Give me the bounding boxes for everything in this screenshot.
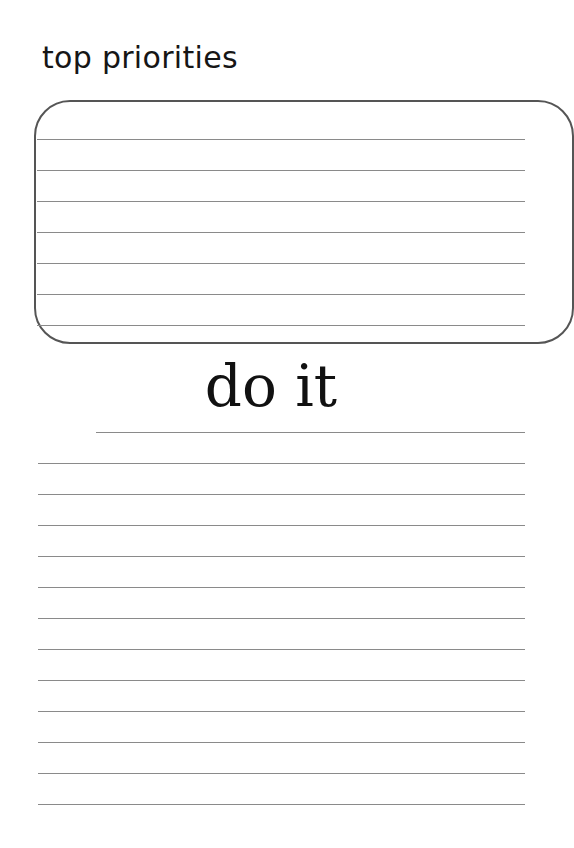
writing-line	[38, 680, 525, 681]
section-heading: do it	[0, 352, 536, 420]
section-heading-text: do it	[205, 352, 337, 420]
writing-line	[38, 556, 525, 557]
writing-line	[38, 618, 525, 619]
writing-line	[37, 294, 525, 295]
page-title: top priorities	[42, 40, 238, 75]
writing-line	[37, 201, 525, 202]
writing-line	[37, 263, 525, 264]
writing-line	[38, 587, 525, 588]
writing-line	[38, 649, 525, 650]
writing-line	[38, 463, 525, 464]
writing-line	[38, 773, 525, 774]
top-priorities-box	[34, 100, 574, 344]
writing-line	[38, 804, 525, 805]
writing-line	[96, 432, 525, 433]
writing-line	[38, 494, 525, 495]
writing-line	[37, 232, 525, 233]
writing-line	[38, 525, 525, 526]
writing-line	[38, 742, 525, 743]
writing-line	[38, 711, 525, 712]
writing-line	[37, 139, 525, 140]
writing-line	[37, 170, 525, 171]
writing-line	[37, 325, 525, 326]
